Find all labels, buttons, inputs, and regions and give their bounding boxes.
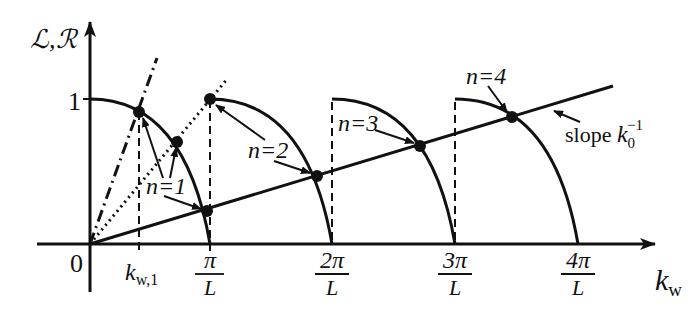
svg-text:L: L — [571, 275, 584, 300]
svg-text:4π: 4π — [566, 247, 591, 273]
label-n1: n=1 — [146, 173, 186, 199]
y-tick-label-1: 1 — [68, 87, 81, 116]
svg-text:L: L — [448, 275, 461, 300]
svg-text:L: L — [203, 275, 216, 300]
origin-label: 0 — [70, 249, 83, 278]
x-axis-label: kw — [655, 263, 682, 300]
slope-label: slope k0−1 — [565, 117, 643, 151]
x-tick-3pi: 3π L — [438, 247, 472, 300]
x-tick-4pi: 4π L — [561, 247, 595, 300]
x-tick-pi: π L — [195, 247, 224, 300]
label-n4: n=4 — [466, 63, 506, 89]
diagram-canvas: ℒ,ℛ 1 0 kw kw,1 π L 2π L 3π L 4π L n=1 n… — [0, 0, 691, 313]
svg-text:3π: 3π — [442, 247, 468, 273]
svg-text:L: L — [325, 275, 338, 300]
intersection-points — [133, 93, 518, 217]
label-n3: n=3 — [338, 110, 378, 136]
y-axis-label: ℒ,ℛ — [30, 25, 79, 54]
x-tick-2pi: 2π L — [315, 247, 349, 300]
x-tick-kw1: kw,1 — [125, 259, 158, 288]
dash-dot-line — [90, 58, 157, 244]
label-n2: n=2 — [248, 137, 288, 163]
svg-text:2π: 2π — [320, 247, 345, 273]
diagram-stage: ℒ,ℛ 1 0 kw kw,1 π L 2π L 3π L 4π L n=1 n… — [0, 0, 691, 313]
dashed-guides — [139, 100, 455, 252]
svg-text:π: π — [204, 247, 217, 273]
